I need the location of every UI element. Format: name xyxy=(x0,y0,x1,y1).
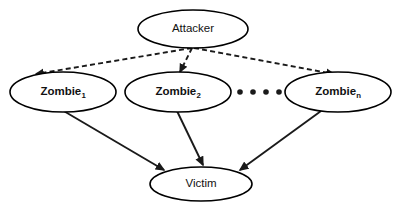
node-zombie-2[interactable] xyxy=(125,72,231,112)
node-zombie-1[interactable] xyxy=(10,72,116,112)
edge-attacker-to-zombie-n xyxy=(194,48,334,74)
diagram-canvas xyxy=(0,0,398,206)
horizontal-ellipsis-icon xyxy=(237,89,282,95)
node-attacker[interactable] xyxy=(138,10,248,48)
edge-zombie-1-to-victim xyxy=(62,110,164,170)
node-victim[interactable] xyxy=(150,167,252,201)
ddos-topology-diagram: Attacker Zombie1 Zombie2 Zombien Victim xyxy=(0,0,398,206)
node-zombie-n[interactable] xyxy=(285,72,391,112)
edge-zombie-n-to-victim xyxy=(240,111,321,170)
edge-attacker-to-zombie-2 xyxy=(180,48,192,72)
edge-attacker-to-zombie-1 xyxy=(36,48,192,74)
edge-zombie-2-to-victim xyxy=(177,111,203,165)
